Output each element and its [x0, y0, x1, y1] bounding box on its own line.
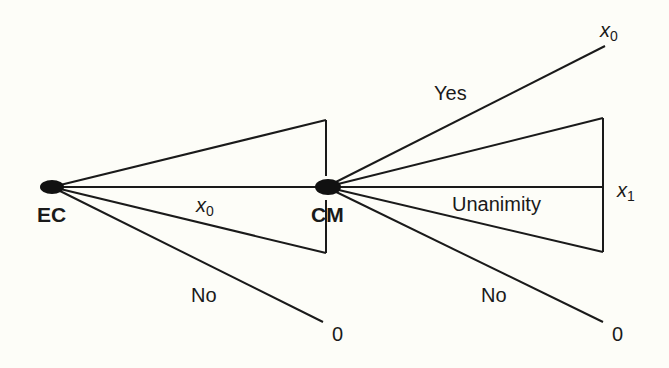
ec-node-label: EC: [37, 204, 66, 225]
cm-yes-edge: [326, 46, 605, 187]
ec-node: [40, 180, 64, 194]
cm-no-payoff: 0: [612, 324, 623, 344]
cm-no-label: No: [481, 285, 507, 305]
cm-yes-payoff: x0: [600, 20, 618, 43]
cm-node-label: CM: [311, 204, 344, 225]
ec-no-edge: [52, 187, 323, 322]
ec-to-cm-label: x0: [196, 195, 214, 218]
cm-fan-upper-edge: [326, 118, 603, 187]
cm-node: [315, 179, 341, 195]
game-tree-lines: [0, 0, 669, 368]
cm-unanimity-payoff: x1: [617, 180, 635, 203]
ec-fan-upper-edge: [52, 120, 326, 187]
ec-fan-lower-edge: [52, 187, 326, 253]
cm-yes-label: Yes: [434, 83, 467, 103]
ec-no-payoff: 0: [332, 324, 343, 344]
ec-no-label: No: [191, 285, 217, 305]
cm-unanimity-label: Unanimity: [452, 194, 541, 214]
